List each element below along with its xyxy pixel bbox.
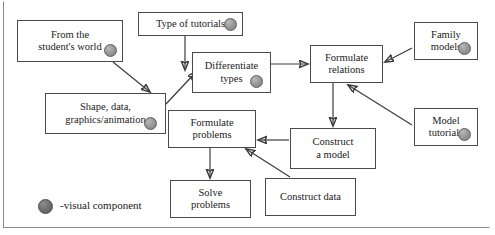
- diagram-canvas: From the student's world Shape, data, gr…: [0, 0, 495, 235]
- node-family-models[interactable]: Family models: [414, 22, 478, 60]
- arrow-model_tutorials-to-formulate_relations: [348, 85, 412, 125]
- node-label: From the student's world: [38, 29, 101, 54]
- visual-component-circle-icon: [458, 128, 471, 141]
- node-formulate-problems[interactable]: Formulate problems: [168, 110, 256, 148]
- node-label: Solve problems: [191, 187, 230, 212]
- node-label: Formulate relations: [325, 52, 368, 77]
- legend-filled-circle-icon: [38, 199, 53, 214]
- node-formulate-relations[interactable]: Formulate relations: [310, 45, 383, 83]
- node-label: Family models: [431, 29, 461, 54]
- visual-component-circle-icon: [224, 18, 237, 31]
- node-construct-data[interactable]: Construct data: [265, 178, 356, 216]
- node-label: Shape, data, graphics/animation: [65, 101, 145, 126]
- node-model-tutorials[interactable]: Model tutorials: [414, 108, 478, 146]
- arrow-from_student_world-to-shape_data: [113, 62, 150, 92]
- node-construct-a-model[interactable]: Construct a model: [290, 128, 376, 169]
- node-label: Construct data: [280, 191, 341, 203]
- arrow-construct_data-to-formulate_problems: [246, 149, 290, 177]
- node-label: Formulate problems: [190, 117, 233, 142]
- visual-component-circle-icon: [104, 44, 117, 57]
- node-label: Construct a model: [313, 136, 354, 161]
- visual-component-circle-icon: [458, 42, 471, 55]
- visual-component-circle-icon: [144, 117, 157, 130]
- node-solve-problems[interactable]: Solve problems: [170, 180, 251, 218]
- legend-label: -visual component: [60, 199, 142, 211]
- node-label: Type of tutorials: [156, 18, 225, 30]
- arrow-family_models-to-formulate_relations: [385, 48, 412, 62]
- visual-component-circle-icon: [250, 75, 263, 88]
